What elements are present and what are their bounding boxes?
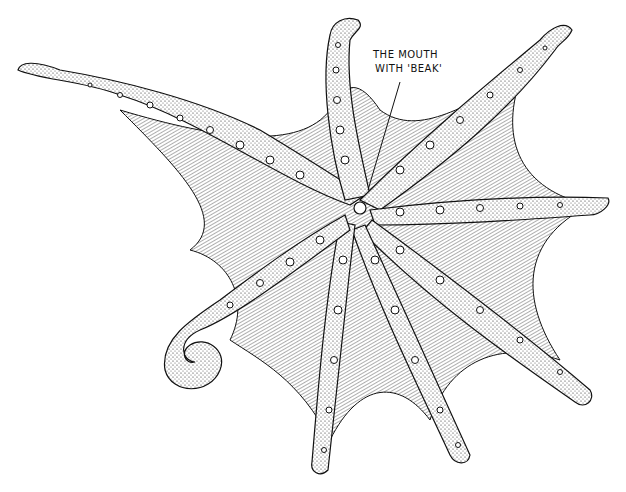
annotation-line1: THE MOUTH — [373, 48, 442, 62]
annotation-label: THE MOUTH WITH 'BEAK' — [373, 48, 442, 76]
mouth — [354, 202, 366, 214]
annotation-line2: WITH 'BEAK' — [375, 62, 442, 76]
octopus-illustration: THE MOUTH WITH 'BEAK' — [0, 0, 626, 492]
octopus-drawing — [0, 0, 626, 492]
